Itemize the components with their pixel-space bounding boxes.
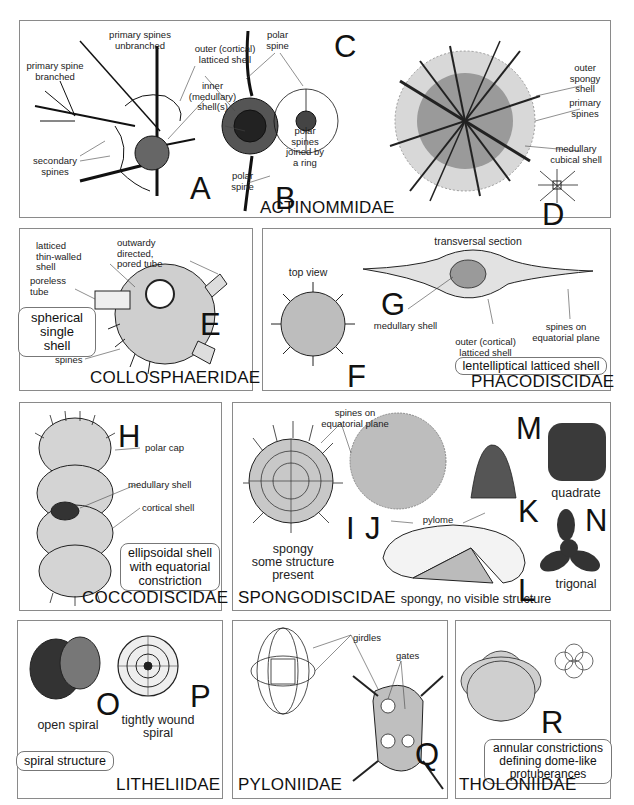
- family-title-tholoniidae: THOLONIIDAE: [459, 776, 576, 794]
- label-medullary-cubical-shell: medullary cubical shell: [540, 144, 612, 165]
- family-title-spongodiscidae: SPONGODISCIDAE: [238, 589, 396, 607]
- panel-tholoniidae: annular constrictions defining dome-like…: [455, 620, 611, 799]
- label-spines-equatorial-plane-i: spines on equatorial plane: [315, 408, 395, 429]
- label-pylome: pylome: [413, 515, 463, 526]
- label-gates: gates: [396, 651, 436, 662]
- note-spiral-structure: spiral structure: [16, 751, 114, 771]
- specimen-letter-o: O: [96, 689, 120, 720]
- specimen-letter-g: G: [381, 289, 405, 320]
- label-secondary-spines: secondary spines: [25, 156, 85, 177]
- specimen-letter-r: R: [541, 707, 563, 738]
- label-spongy-no-structure: spongy, no visible structure: [391, 593, 561, 606]
- note-spherical-single-shell: spherical single shell: [18, 307, 96, 357]
- label-latticed-thin-walled-shell: latticed thin-walled shell: [36, 241, 111, 273]
- label-medullary-shell: medullary shell: [368, 321, 443, 332]
- note-ellipsoidal-shell: ellipsoidal shell with equatorial constr…: [120, 543, 220, 591]
- specimen-letter-c: C: [334, 31, 356, 62]
- specimen-letter-h: H: [118, 421, 140, 452]
- label-spines-equatorial-plane: spines on equatorial plane: [526, 322, 606, 343]
- panel-litheliidae: open spiral tightly wound spiral spiral …: [17, 620, 223, 799]
- label-top-view: top view: [283, 267, 333, 278]
- specimen-letter-m: M: [516, 413, 542, 444]
- specimen-letter-i: I: [346, 513, 355, 544]
- family-title-pyloniidae: PYLONIIDAE: [238, 776, 342, 794]
- label-tightly-wound-spiral: tightly wound spiral: [113, 714, 203, 740]
- panel-actinommidae: primary spines unbranched primary spine …: [19, 20, 611, 218]
- specimen-letter-k: K: [518, 496, 539, 527]
- label-primary-spines-unbranched: primary spines unbranched: [95, 30, 185, 51]
- panel-collosphaeridae: latticed thin-walled shell outwardy dire…: [19, 228, 253, 391]
- specimen-letter-j: J: [365, 513, 381, 544]
- specimen-q-illustration: [233, 621, 449, 800]
- specimen-letter-e: E: [200, 309, 221, 340]
- family-title-litheliidae: LITHELIIDAE: [116, 776, 220, 794]
- specimen-letter-l: L: [518, 575, 535, 606]
- family-title-actinommidae: ACTINOMMIDAE: [260, 199, 395, 217]
- panel-pyloniidae: girdles gates Q PYLONIIDAE: [232, 620, 448, 799]
- label-polar-spine-lower: polar spine: [220, 171, 265, 192]
- label-cortical-shell: cortical shell: [142, 503, 212, 514]
- specimen-letter-q: Q: [415, 739, 439, 770]
- label-polar-spine-upper: polar spine: [255, 30, 300, 51]
- panel-coccodiscidae: polar cap medullary shell cortical shell…: [19, 402, 222, 611]
- label-spongy-some-structure: spongy some structure present: [243, 543, 343, 582]
- family-title-phacodiscidae: PHACODISCIDAE: [471, 373, 614, 391]
- specimen-letter-a: A: [190, 173, 211, 204]
- panel-phacodiscidae: top view transversal section medullary s…: [262, 228, 611, 391]
- label-outer-spongy-shell: outer spongy shell: [560, 63, 610, 95]
- specimen-letter-p: P: [190, 681, 211, 712]
- label-polar-spines-ring: polar spines joined by a ring: [275, 126, 335, 168]
- label-polar-cap: polar cap: [145, 443, 205, 454]
- label-primary-spine-branched: primary spine branched: [20, 61, 90, 82]
- label-outward-pored-tube: outwardy directed, pored tube: [117, 238, 187, 270]
- panel-spongodiscidae: spines on equatorial plane pylome quadra…: [232, 402, 611, 611]
- family-title-collosphaeridae: COLLOSPHAERIDAE: [90, 369, 260, 387]
- label-outer-cortical-shell-g: outer (cortical) latticed shell: [448, 337, 523, 358]
- specimen-letter-n: N: [585, 505, 607, 536]
- label-medullary-shell-h: medullary shell: [128, 480, 208, 491]
- label-quadrate: quadrate: [543, 487, 609, 500]
- specimen-letter-d: D: [542, 199, 564, 230]
- label-poreless-tube: poreless tube: [30, 276, 80, 297]
- label-outer-cortical-shell: outer (cortical) latticed shell: [185, 44, 265, 65]
- label-inner-medullary-shell: inner (medullary) shell(s): [185, 81, 240, 113]
- label-trigonal: trigonal: [543, 578, 609, 591]
- label-primary-spines: primary spines: [560, 98, 610, 119]
- specimen-letter-f: F: [347, 361, 366, 392]
- label-transversal-section: transversal section: [423, 236, 533, 247]
- family-title-coccodiscidae: COCCODISCIDAE: [82, 589, 228, 607]
- label-girdles: girdles: [353, 633, 398, 644]
